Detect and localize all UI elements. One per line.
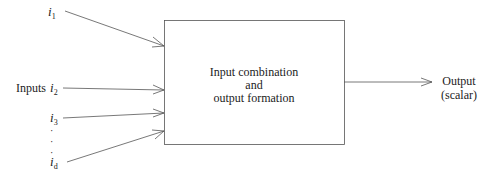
- output-line-2: (scalar): [441, 88, 477, 102]
- output-label: Output (scalar): [441, 74, 477, 102]
- arrow-i3: [63, 113, 164, 118]
- output-line-1: Output: [441, 74, 477, 88]
- inputs-label: Inputs: [16, 81, 46, 95]
- input-i2-label: i2: [50, 81, 58, 100]
- ellipsis-dot: ·: [50, 137, 53, 147]
- box-line-3: output formation: [164, 92, 344, 105]
- arrow-id: [67, 131, 164, 162]
- arrow-i2: [63, 88, 164, 90]
- input-i1-label: i1: [48, 5, 56, 24]
- input-id-label: id: [50, 155, 58, 174]
- ellipsis-dot: ·: [50, 126, 53, 136]
- process-box-label: Input combination and output formation: [164, 66, 344, 105]
- arrow-i1: [65, 11, 164, 46]
